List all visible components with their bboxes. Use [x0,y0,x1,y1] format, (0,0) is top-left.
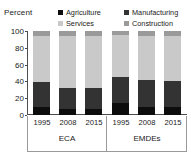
group-label-emdes: EMDEs [108,134,186,143]
bar-segment-services [164,36,181,81]
legend-label-manufacturing: Manufacturing [132,8,178,18]
bar-segment-manufacturing [112,77,129,103]
bar-segment-manufacturing [164,81,181,106]
bar-column [33,31,50,115]
y-tick-label: 80 [15,43,24,52]
bar-segment-services [85,36,102,88]
bar-segment-manufacturing [33,82,50,107]
plot-area: 020406080100 [27,31,187,115]
y-tick-label: 0 [20,111,24,120]
bar-segment-agriculture [85,109,102,115]
y-axis-title: Percent [4,8,32,17]
legend-swatch-agriculture [58,10,63,15]
bar-column [112,31,129,115]
year-label: 2015 [161,118,185,127]
year-label: 1995 [109,118,133,127]
bar-segment-services [138,36,155,80]
category-group-divider [106,116,107,152]
y-tick-label: 100 [11,27,24,36]
bar-column [164,31,181,115]
y-tick-label: 20 [15,94,24,103]
bar-segment-agriculture [59,109,76,115]
year-label: 2008 [135,118,159,127]
legend-label-agriculture: Agriculture [66,8,101,18]
y-tick-label: 60 [15,60,24,69]
legend-swatch-construction [124,21,129,26]
bar-segment-services [59,36,76,88]
year-label: 2008 [56,118,80,127]
bar-segment-manufacturing [59,88,76,109]
chart-legend: Agriculture Manufacturing Services Const… [58,7,190,29]
bar-column [59,31,76,115]
bars-layer [27,31,187,115]
legend-item-construction: Construction [124,19,190,29]
legend-item-manufacturing: Manufacturing [124,8,190,18]
bar-segment-agriculture [112,103,129,115]
bar-segment-manufacturing [138,80,155,107]
chart-container: Percent Agriculture Manufacturing Servic… [0,0,191,156]
bar-segment-services [33,36,50,82]
bar-segment-services [112,35,129,77]
bar-column [138,31,155,115]
legend-swatch-services [58,21,63,26]
legend-label-construction: Construction [132,19,173,29]
bar-segment-manufacturing [85,88,102,109]
bar-segment-agriculture [33,107,50,115]
bar-segment-agriculture [164,107,181,115]
category-axis: 199520082015199520082015 ECA EMDEs [27,116,187,153]
legend-swatch-manufacturing [124,10,129,15]
legend-item-services: Services [58,19,124,29]
year-label: 1995 [30,118,54,127]
year-label: 2015 [82,118,106,127]
bar-column [85,31,102,115]
legend-label-services: Services [66,19,94,29]
bar-segment-agriculture [138,107,155,115]
legend-item-agriculture: Agriculture [58,8,124,18]
group-label-eca: ECA [28,134,106,143]
y-tick-label: 40 [15,77,24,86]
